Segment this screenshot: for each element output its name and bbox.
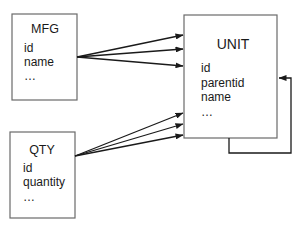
entity-qty-field: id	[23, 161, 32, 175]
arrow-mfg-unit-3	[77, 57, 183, 66]
entity-unit-field: parentid	[201, 76, 244, 90]
relationship-mfg-unit	[77, 35, 183, 66]
entity-mfg-field: id	[24, 41, 33, 55]
relationship-qty-unit	[75, 113, 183, 156]
entity-unit: UNIT id parentid name …	[184, 15, 277, 138]
arrow-mfg-unit-1	[77, 35, 183, 57]
entity-qty-field: …	[23, 190, 35, 204]
entity-unit-field: id	[201, 61, 210, 75]
arrow-mfg-unit-2	[77, 49, 183, 57]
entity-mfg-title: MFG	[31, 22, 59, 36]
entity-unit-field: …	[201, 105, 213, 119]
entity-qty: QTY id quantity …	[10, 132, 75, 218]
entity-mfg-field: name	[24, 55, 54, 69]
entity-mfg-field: …	[24, 69, 36, 83]
arrow-qty-unit-2	[75, 124, 183, 156]
entity-relationship-diagram: MFG id name … QTY id quantity … UNIT id …	[0, 0, 300, 227]
entity-qty-title: QTY	[29, 143, 55, 157]
arrow-qty-unit-1	[75, 113, 183, 156]
entity-unit-field: name	[201, 90, 231, 104]
entity-qty-field: quantity	[23, 175, 65, 189]
arrow-qty-unit-3	[75, 135, 183, 156]
entity-mfg: MFG id name …	[12, 14, 77, 100]
entity-unit-title: UNIT	[217, 36, 250, 52]
